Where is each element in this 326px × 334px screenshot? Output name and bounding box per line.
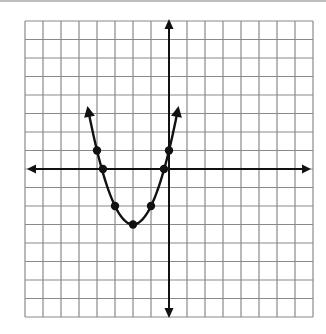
coordinate-plane xyxy=(0,0,326,334)
data-point xyxy=(99,165,107,173)
data-point xyxy=(147,202,155,210)
data-point xyxy=(160,165,168,173)
x-axis-right-arrow-icon xyxy=(302,165,311,174)
data-point xyxy=(111,202,119,210)
data-point xyxy=(165,146,173,154)
axes xyxy=(27,19,311,318)
data-point xyxy=(129,220,137,228)
data-point xyxy=(93,146,101,154)
x-axis-left-arrow-icon xyxy=(27,165,36,174)
curve-right-arrow-icon xyxy=(171,106,182,118)
curve-left-arrow-icon xyxy=(84,106,95,118)
